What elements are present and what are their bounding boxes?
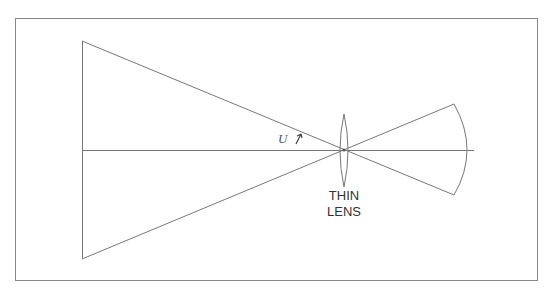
lens-label-line1: THIN [320,188,368,204]
optics-diagram [0,0,550,293]
lens-label-line2: LENS [320,204,368,220]
lens-label: THIN LENS [320,188,368,220]
angle-arrow-icon [296,134,302,144]
angle-label: U [278,131,287,147]
upper-ray [82,41,454,195]
image-arc [454,104,467,195]
figure-border [16,19,538,281]
lower-ray [82,104,454,259]
focal-point [343,149,346,152]
